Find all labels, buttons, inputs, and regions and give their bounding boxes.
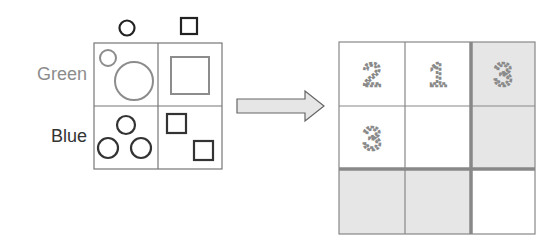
right-grid: 2 1 3 3: [339, 42, 535, 234]
circle-icon: [120, 21, 135, 36]
digit-r2c1: 3: [363, 119, 382, 157]
digit-r1c3: 3: [494, 55, 513, 93]
left-grid: [94, 43, 222, 169]
row-label-blue: Blue: [27, 126, 87, 147]
digit-r1c1: 2: [363, 55, 382, 93]
square-icon: [181, 18, 197, 34]
cell-r3c2: [405, 169, 471, 234]
right-arrow-icon: [237, 91, 324, 121]
diagram-canvas: 2 1 3 3: [0, 0, 554, 244]
cell-r2c2: [405, 106, 471, 169]
cell-r2c3: [471, 106, 535, 169]
digit-r1c2: 1: [429, 55, 448, 93]
cell-r3c1: [339, 169, 405, 234]
row-label-green: Green: [27, 64, 87, 85]
cell-r3c3: [471, 169, 535, 234]
